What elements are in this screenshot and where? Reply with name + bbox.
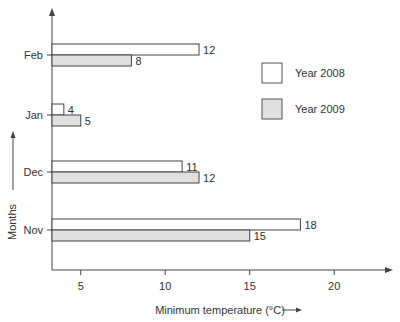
bar: [52, 172, 199, 183]
bar-value-label: 5: [85, 115, 91, 127]
bar: [52, 104, 64, 115]
legend-label: Year 2009: [295, 103, 345, 115]
bar: [52, 230, 250, 241]
x-axis-label: Minimum temperature (°C): [155, 304, 285, 316]
x-tick-label: 20: [328, 280, 340, 292]
y-axis-label: Months: [6, 203, 18, 240]
bar-value-label: 4: [68, 104, 74, 116]
x-axis-arrow-icon: [385, 267, 393, 273]
y-tick-label: Nov: [23, 224, 43, 236]
y-tick-label: Feb: [24, 49, 43, 61]
bar-value-label: 11: [186, 161, 197, 173]
bar-value-label: 8: [135, 55, 141, 67]
x-tick-label: 15: [244, 280, 256, 292]
bar-value-label: 12: [203, 172, 215, 184]
bar: [52, 115, 81, 126]
bar: [52, 55, 131, 66]
bar-value-label: 12: [203, 44, 215, 56]
bar-chart: 5101520Nov1815Dec1112Jan45Feb128Minimum …: [0, 0, 400, 322]
x-tick-label: 10: [159, 280, 171, 292]
legend-swatch: [262, 63, 282, 83]
bar-value-label: 18: [304, 219, 316, 231]
legend-label: Year 2008: [295, 67, 345, 79]
y-tick-label: Jan: [25, 109, 43, 121]
y-label-arrow-icon: [11, 131, 16, 138]
legend-swatch: [262, 99, 282, 119]
x-tick-label: 5: [78, 280, 84, 292]
bar: [52, 219, 300, 230]
bar: [52, 44, 199, 55]
y-axis-arrow-icon: [49, 8, 55, 16]
y-tick-label: Dec: [23, 166, 43, 178]
bar-value-label: 15: [254, 230, 266, 242]
bar: [52, 161, 182, 172]
x-label-arrow-icon: [296, 308, 302, 313]
